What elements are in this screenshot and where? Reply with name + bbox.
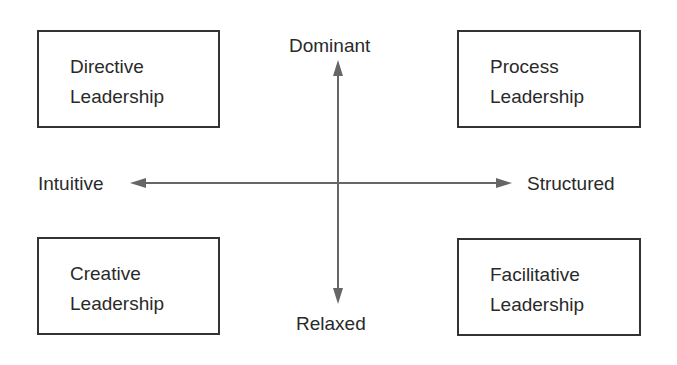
quadrant-creative-leadership: Creative Leadership xyxy=(37,237,220,335)
quadrant-subtitle: Leadership xyxy=(70,289,164,319)
quadrant-directive-leadership: Directive Leadership xyxy=(37,30,220,128)
arrow-up-icon xyxy=(333,60,343,76)
quadrant-title: Facilitative xyxy=(490,260,584,290)
quadrant-subtitle: Leadership xyxy=(490,82,584,112)
arrow-down-icon xyxy=(333,288,343,304)
axis-label-left: Intuitive xyxy=(38,173,103,195)
quadrant-subtitle: Leadership xyxy=(490,290,584,320)
quadrant-title: Creative xyxy=(70,259,164,289)
quadrant-title: Process xyxy=(490,52,584,82)
axis-label-bottom: Relaxed xyxy=(296,313,366,335)
quadrant-process-leadership: Process Leadership xyxy=(457,30,641,128)
quadrant-title: Directive xyxy=(70,52,164,82)
arrow-right-icon xyxy=(496,178,512,188)
quadrant-facilitative-leadership: Facilitative Leadership xyxy=(457,238,641,336)
arrow-left-icon xyxy=(130,178,146,188)
axis-label-right: Structured xyxy=(527,173,615,195)
quadrant-subtitle: Leadership xyxy=(70,82,164,112)
axis-label-top: Dominant xyxy=(289,35,370,57)
